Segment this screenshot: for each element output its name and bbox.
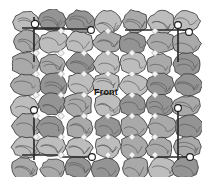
circle-marker-marker-bottom-right	[187, 154, 194, 161]
front-label: Front	[94, 87, 118, 97]
stone-block	[173, 53, 200, 77]
stone-block-body	[120, 52, 147, 73]
circle-marker-marker-left-middle	[31, 107, 38, 114]
circle-marker-marker-top-right-inner	[175, 22, 182, 29]
cobblestone-grid-figure: Front	[0, 0, 212, 185]
stone-block	[120, 52, 147, 73]
stone-block-body	[68, 73, 95, 96]
circle-marker-marker-top-center	[88, 27, 95, 34]
circle-marker-marker-right-middle	[175, 105, 182, 112]
stone-block	[64, 93, 92, 117]
circle-marker-marker-top-left	[31, 20, 38, 27]
stone-block	[68, 73, 95, 96]
circle-marker-marker-bottom-center	[89, 154, 96, 161]
figure-canvas: Front	[0, 0, 212, 185]
circle-marker-marker-top-right-outer	[186, 29, 193, 36]
